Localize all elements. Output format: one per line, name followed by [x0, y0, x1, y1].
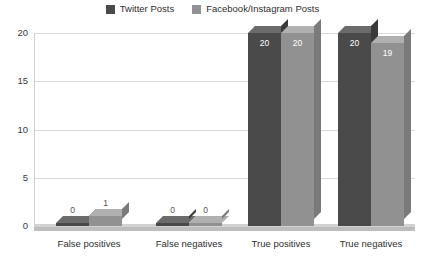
bar-chart: Twitter Posts Facebook/Instagram Posts 0… — [0, 0, 425, 269]
bar-front-face — [89, 216, 122, 226]
bar[interactable]: 0 — [56, 216, 89, 226]
bar[interactable]: 1 — [89, 209, 122, 226]
bar[interactable]: 20 — [281, 26, 314, 226]
plot-area: 05101520 010020202019 False positivesFal… — [0, 0, 425, 269]
x-axis-category-label: False positives — [39, 238, 139, 249]
bar-value-label: 20 — [338, 39, 371, 48]
bar-value-label: 19 — [371, 49, 404, 58]
bar-front-face — [281, 33, 314, 226]
bar-front-face — [56, 223, 89, 226]
bar-value-label: 0 — [156, 206, 189, 215]
bar-front-face — [189, 223, 222, 226]
bar[interactable]: 20 — [248, 26, 281, 226]
bar-front-face — [371, 43, 404, 226]
y-axis-tick-label: 10 — [2, 125, 28, 135]
y-axis-tick-label: 0 — [2, 221, 28, 231]
y-axis-tick-label: 20 — [2, 28, 28, 38]
bar[interactable]: 19 — [371, 36, 404, 226]
bar-value-label: 1 — [89, 199, 122, 208]
y-axis-line — [34, 33, 35, 227]
bar-front-face — [338, 33, 371, 226]
bar[interactable]: 20 — [338, 26, 371, 226]
bar-front-face — [156, 223, 189, 226]
y-axis-tick-label: 15 — [2, 76, 28, 86]
bar-value-label: 0 — [189, 206, 222, 215]
bar-front-face — [248, 33, 281, 226]
bar[interactable]: 0 — [156, 216, 189, 226]
bar-side-face — [404, 29, 411, 219]
floor-front-face — [34, 227, 415, 231]
y-axis-tick-label: 5 — [2, 173, 28, 183]
bar-value-label: 20 — [248, 39, 281, 48]
x-axis-category-label: True positives — [231, 238, 331, 249]
bar[interactable]: 0 — [189, 216, 222, 226]
bar-value-label: 0 — [56, 206, 89, 215]
bar-value-label: 20 — [281, 39, 314, 48]
x-axis-category-label: True negatives — [321, 238, 421, 249]
bar-side-face — [122, 202, 129, 219]
bar-side-face — [314, 19, 321, 219]
x-axis-category-label: False negatives — [139, 238, 239, 249]
